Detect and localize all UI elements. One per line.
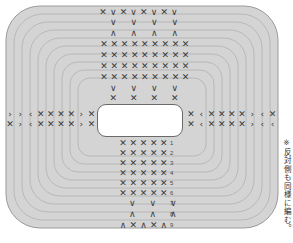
row-number-label: 4 [170, 170, 173, 176]
row-number-label: 7 [170, 200, 173, 206]
row-number-label: 1 [170, 140, 173, 146]
row-number-column: 123456789 [0, 0, 293, 243]
row-number-label: 6 [170, 190, 173, 196]
row-number-label: 3 [170, 160, 173, 166]
instruction-note: ※反対側も同様に編む。 [282, 138, 291, 233]
pattern-chart-canvas: ✕∨✕∨✕∨✕∨∨∨∨∨∧∧∧∧✕✕✕✕✕✕✕✕✕✕✕✕✕✕✕✕✕✕✕✕✕✕✕✕… [0, 0, 293, 243]
row-number-label: 8 [170, 211, 173, 217]
row-number-label: 2 [170, 150, 173, 156]
row-number-label: 5 [170, 180, 173, 186]
row-number-label: 9 [170, 222, 173, 228]
